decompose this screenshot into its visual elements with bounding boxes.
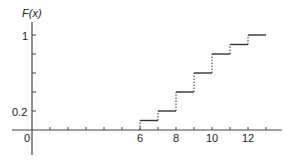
x-tick-label-12: 12 (242, 132, 254, 144)
y-axis-title: F(x) (22, 7, 42, 19)
x-tick-label-10: 10 (206, 132, 218, 144)
y-tick-label-1: 1 (22, 30, 28, 42)
x-tick-label-8: 8 (173, 132, 179, 144)
x-tick-label-0: 0 (24, 132, 30, 144)
y-tick-label-0-2: 0.2 (12, 106, 27, 118)
cdf-steps (140, 35, 266, 130)
x-tick-label-6: 6 (137, 132, 143, 144)
cdf-step-chart: F(x) 1 0.2 0 6 8 10 12 (0, 0, 292, 161)
